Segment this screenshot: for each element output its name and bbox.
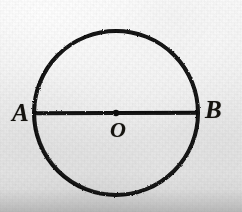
point-label-a: A <box>12 100 29 125</box>
center-point-dot <box>113 110 119 116</box>
point-label-o: O <box>110 119 126 141</box>
geometry-figure: A B O <box>0 0 242 212</box>
point-label-b: B <box>205 97 222 122</box>
ink-group <box>34 31 198 195</box>
